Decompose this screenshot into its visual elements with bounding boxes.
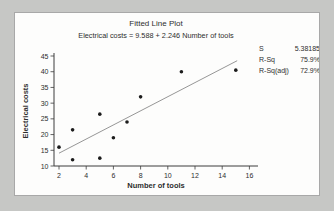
stat-rsq-value: 75.9% [300,56,319,63]
plot-panel: Fitted Line Plot Electrical costs = 9.58… [14,12,320,196]
stat-rsqadj-label: R-Sq(adj) [259,67,289,75]
data-point [98,112,102,116]
y-tick-label: 25 [41,115,49,122]
y-tick-label: 20 [41,131,49,138]
x-tick-label: 16 [246,172,254,179]
x-axis-label: Number of tools [127,181,185,190]
chart-subtitle: Electrical costs = 9.588 + 2.246 Number … [78,31,234,40]
x-tick-label: 2 [57,172,61,179]
data-point [71,128,75,132]
chart-title: Fitted Line Plot [129,19,183,28]
y-tick-label: 35 [41,84,49,91]
stat-rsq-label: R-Sq [259,56,275,64]
data-point [71,158,75,162]
stat-s-label: S [259,45,264,52]
x-tick-label: 8 [139,172,143,179]
y-axis-label: Electrical costs [21,83,30,138]
data-point [98,156,102,160]
stats-legend: S 5.38185 R-Sq 75.9% R-Sq(adj) 72.9% [259,45,319,75]
y-tick-label: 15 [41,147,49,154]
x-tick-label: 6 [111,172,115,179]
x-tick-label: 10 [164,172,172,179]
data-point [234,68,238,72]
y-tick-label: 40 [41,68,49,75]
fitted-line-plot: Fitted Line Plot Electrical costs = 9.58… [15,13,319,195]
stat-rsqadj-value: 72.9% [300,67,319,74]
fitted-line [59,61,237,153]
x-tick-label: 4 [84,172,88,179]
y-tick-label: 45 [41,53,49,60]
data-point [57,145,61,149]
stat-s-value: 5.38185 [295,45,319,52]
data-point [139,95,143,99]
data-point [180,70,184,74]
x-tick-label: 12 [191,172,199,179]
y-tick-label: 30 [41,100,49,107]
data-point [125,120,129,124]
x-tick-label: 14 [218,172,226,179]
screenshot-root: Fitted Line Plot Electrical costs = 9.58… [0,0,334,211]
y-tick-label: 10 [41,163,49,170]
data-point [112,136,116,140]
chart-dynamic: 2468101214161015202530354045 [41,53,254,180]
